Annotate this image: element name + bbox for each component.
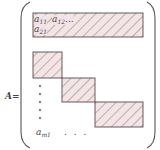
- matrix-equals-label: A=: [5, 92, 20, 101]
- block-2: [33, 52, 62, 78]
- horizontal-ellipsis: . . .: [64, 128, 88, 137]
- block-1: [33, 13, 143, 37]
- right-bracket: [147, 2, 155, 148]
- entry-a11-sub: 11: [39, 18, 47, 25]
- entry-a12-sub: 12: [57, 18, 65, 25]
- entry-a12: a12...: [52, 15, 74, 25]
- block-4: [95, 102, 143, 127]
- entry-am1: am1: [36, 128, 51, 138]
- entry-a21: a21: [34, 25, 47, 35]
- vertical-ellipsis: [39, 85, 41, 119]
- entry-am1-sub: m1: [41, 131, 51, 138]
- block-3: [62, 78, 95, 102]
- entry-a12-ellipsis: ...: [65, 14, 74, 24]
- entry-a21-sub: 21: [39, 28, 47, 35]
- left-bracket: [21, 2, 30, 148]
